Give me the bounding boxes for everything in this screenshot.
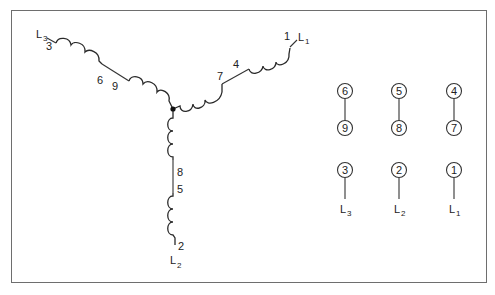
l3-lead-9-label: 9	[112, 80, 118, 92]
coil-center-7	[173, 84, 222, 111]
terminal-l3-label: L	[340, 203, 346, 215]
terminal-block: 6 9 3 L 3 5 8 2 L 2 4 7	[338, 84, 462, 219]
l2-lead-5-label: 5	[177, 183, 183, 195]
terminal-l3-sub: 3	[347, 209, 352, 218]
coil-5-2	[168, 193, 175, 245]
coil-3-6	[56, 38, 102, 64]
l2-line-sub: 2	[177, 261, 182, 270]
l3-line-label: L	[36, 28, 42, 40]
star-point-dot	[170, 106, 175, 111]
terminal-1-label: 1	[451, 164, 457, 176]
l1-lead-wire	[290, 40, 297, 47]
wire-6-9	[102, 64, 129, 81]
terminal-5-label: 5	[396, 85, 402, 97]
branch-l1	[173, 40, 297, 111]
l1-lead-4-label: 4	[233, 58, 239, 70]
l2-lead-8-label: 8	[177, 166, 183, 178]
terminal-l2-label: L	[394, 203, 400, 215]
wye-winding-diagram: L 3 3 6 9 7 4 1 L 1 8 5 2 L 2 6 9 3 L 3 …	[0, 0, 495, 295]
l1-line-label: L	[298, 31, 304, 43]
branch-l2	[168, 110, 175, 245]
coil-4-1	[249, 48, 290, 73]
terminal-3-label: 3	[342, 164, 348, 176]
terminal-column-l2: 5 8 2 L 2	[392, 84, 407, 219]
terminal-l1-label: L	[449, 203, 455, 215]
terminal-4-label: 4	[451, 85, 457, 97]
l3-lead-label: 3	[46, 40, 52, 52]
terminal-6-label: 6	[342, 85, 348, 97]
terminal-column-l3: 6 9 3 L 3	[338, 84, 353, 219]
l1-lead-7-label: 7	[217, 70, 223, 82]
terminal-l2-sub: 2	[401, 209, 406, 218]
terminal-7-label: 7	[451, 122, 457, 134]
terminal-8-label: 8	[396, 122, 402, 134]
terminal-column-l1: 4 7 1 L 1	[447, 84, 462, 219]
l1-line-sub: 1	[305, 37, 310, 46]
l1-lead-1-label: 1	[284, 30, 290, 42]
l3-lead-6-label: 6	[97, 74, 103, 86]
coil-9-center	[129, 77, 173, 109]
branch-l3	[47, 38, 173, 109]
terminal-2-label: 2	[396, 164, 402, 176]
terminal-9-label: 9	[342, 122, 348, 134]
terminal-l1-sub: 1	[456, 209, 461, 218]
wire-7-4	[222, 69, 249, 84]
l2-line-label: L	[170, 254, 176, 266]
l2-lead-2-label: 2	[178, 240, 184, 252]
coil-center-8	[168, 110, 173, 160]
